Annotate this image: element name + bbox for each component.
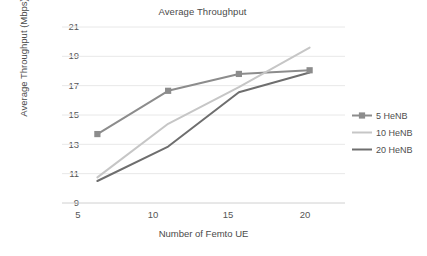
- legend-entry[interactable]: 20 HeNB: [352, 142, 426, 157]
- legend-swatch-icon: [352, 144, 372, 155]
- legend-label: 20 HeNB: [376, 145, 413, 155]
- legend-swatch-icon: [352, 110, 372, 121]
- chart-figure: Average Throughput Average Throughput (M…: [0, 0, 427, 256]
- x-axis-title: Number of Femto UE: [62, 228, 345, 239]
- plot-area: [62, 27, 345, 203]
- series-lines: [97, 48, 309, 181]
- x-tick-label: 20: [288, 209, 322, 220]
- chart-title: Average Throughput: [60, 6, 345, 17]
- legend-entry[interactable]: 10 HeNB: [352, 125, 426, 140]
- series-line: [97, 70, 309, 134]
- x-tick-label: 10: [136, 209, 170, 220]
- chart-legend: 5 HeNB10 HeNB20 HeNB: [352, 108, 426, 159]
- x-tick-label: 15: [211, 209, 245, 220]
- x-tick-label: 5: [61, 209, 95, 220]
- data-point-marker: [307, 67, 313, 73]
- legend-label: 10 HeNB: [376, 128, 413, 138]
- data-point-marker: [165, 88, 171, 94]
- legend-label: 5 HeNB: [376, 111, 408, 121]
- series-markers: [94, 67, 312, 137]
- legend-entry[interactable]: 5 HeNB: [352, 108, 426, 123]
- plot-svg: [62, 27, 345, 203]
- legend-swatch-icon: [352, 127, 372, 138]
- series-line: [97, 48, 309, 178]
- data-point-marker: [94, 131, 100, 137]
- series-line: [97, 72, 309, 181]
- data-point-marker: [236, 71, 242, 77]
- y-axis-title: Average Throughput (Mbps): [18, 0, 29, 128]
